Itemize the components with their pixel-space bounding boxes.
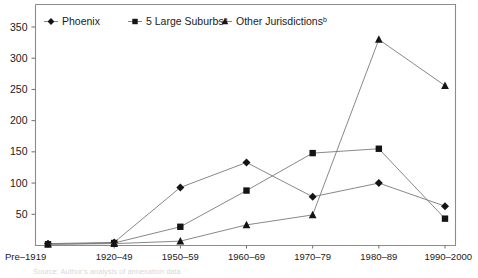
plot-frame	[36, 5, 456, 246]
series-line-phoenix	[48, 162, 445, 243]
line-chart: 50100150200250300350 Pre–19191920–491950…	[0, 0, 478, 278]
diamond-marker-icon	[243, 158, 251, 166]
x-axis-tick-label: 1960–69	[228, 251, 265, 262]
y-axis-tick-label: 50	[16, 208, 28, 220]
x-axis-tick-label: 1950–59	[162, 251, 199, 262]
y-axis-tick-label: 350	[10, 21, 28, 33]
chart-legend: Phoenix5 Large SuburbsaOther Jurisdictio…	[44, 15, 327, 27]
square-marker-icon	[177, 224, 183, 230]
y-axis: 50100150200250300350	[10, 21, 36, 220]
square-marker-icon	[243, 187, 249, 193]
y-axis-tick-label: 150	[10, 145, 28, 157]
diamond-marker-icon	[309, 193, 317, 201]
legend-item-label: Phoenix	[62, 15, 101, 27]
triangle-marker-icon	[375, 35, 383, 42]
triangle-marker-icon	[441, 81, 449, 88]
diamond-marker-icon	[441, 202, 449, 210]
x-axis: Pre–19191920–491950–591960–691970–791980…	[5, 246, 472, 262]
square-marker-icon	[309, 150, 315, 156]
x-axis-tick-label: 1990–2000	[424, 251, 472, 262]
diamond-marker-icon	[375, 179, 383, 187]
y-axis-tick-label: 200	[10, 114, 28, 126]
triangle-marker-icon	[309, 211, 317, 218]
square-marker-icon	[376, 146, 382, 152]
x-axis-tick-label: 1980–89	[360, 251, 397, 262]
series-line-other-jurisdictions	[48, 39, 445, 244]
y-axis-tick-label: 100	[10, 177, 28, 189]
legend-item-label: Other Jurisdictionsb	[236, 15, 327, 27]
legend-item-label: 5 Large Suburbsa	[146, 15, 228, 27]
square-marker-icon	[442, 215, 448, 221]
x-axis-tick-label: 1920–49	[96, 251, 133, 262]
chart-page: 50100150200250300350 Pre–19191920–491950…	[0, 0, 478, 278]
legend-superscript: b	[323, 16, 327, 23]
y-axis-tick-label: 300	[10, 52, 28, 64]
y-axis-tick-label: 250	[10, 83, 28, 95]
diamond-marker-icon	[48, 18, 55, 25]
x-axis-tick-label: 1970–79	[294, 251, 331, 262]
series-layer	[44, 35, 449, 247]
footnote-text: Source: Author's analysis of annexation …	[33, 267, 273, 276]
square-marker-icon	[132, 19, 137, 24]
x-axis-tick-label: Pre–1919	[5, 251, 46, 262]
